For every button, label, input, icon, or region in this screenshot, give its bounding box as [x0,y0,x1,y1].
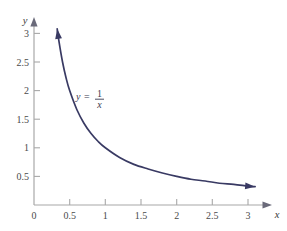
y-tick-labels: 3 2.5 2 1.5 1 0.5 [17,28,30,182]
figure-container: 3 2.5 2 1.5 1 0.5 0 0.5 1 1.5 2 2.5 3 y … [0,0,287,231]
curve-group [55,29,255,189]
x-tick-label: 0.5 [63,210,76,221]
x-tick-marks [70,199,248,205]
y-tick-label: 3 [24,28,29,39]
axes-group [30,17,272,209]
x-axis-label: x [274,209,280,220]
y-tick-marks [34,33,40,176]
y-axis-arrow-icon [30,17,37,27]
x-tick-label: 2 [174,210,179,221]
y-axis-label: y [22,15,28,26]
equation-annotation: y = 1 x [75,88,104,111]
y-tick-label: 2 [24,85,29,96]
x-tick-label: 2.5 [206,210,219,221]
curve-y-equals-one-over-x [57,29,255,187]
plot-svg: 3 2.5 2 1.5 1 0.5 0 0.5 1 1.5 2 2.5 3 y … [0,0,287,231]
x-tick-label: 3 [246,210,251,221]
equation-lhs: y [75,91,81,102]
x-axis-arrow-icon [263,201,273,208]
x-origin-label: 0 [32,210,37,221]
equation-denominator: x [96,99,102,110]
x-tick-labels: 0 0.5 1 1.5 2 2.5 3 [32,210,251,221]
curve-start-arrow-icon [55,29,62,39]
y-tick-label: 0.5 [17,171,30,182]
x-tick-label: 1 [103,210,108,221]
y-tick-label: 1.5 [17,114,30,125]
equation-equals: = [84,91,90,102]
x-tick-label: 1.5 [135,210,148,221]
equation-numerator: 1 [97,88,102,99]
y-tick-label: 1 [24,142,29,153]
y-tick-label: 2.5 [17,57,30,68]
